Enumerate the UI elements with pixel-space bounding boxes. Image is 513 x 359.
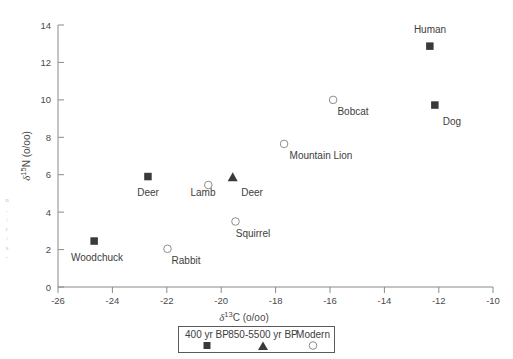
x-tick-label-neg14: -14 — [378, 295, 392, 306]
x-tick-label-neg12: -12 — [432, 295, 446, 306]
x-tick-label-neg16: -16 — [323, 295, 337, 306]
y-axis-element: N (o/oo) — [21, 131, 32, 167]
data-label-lamb: Lamb — [190, 187, 215, 198]
legend-label-modern[interactable]: Modern — [296, 329, 330, 340]
plot-canvas: 0 2 4 6 8 10 12 14 -26 -24 -22 -20 -18 -… — [0, 0, 513, 359]
data-point-woodchuck[interactable] — [90, 237, 98, 245]
legend: 400 yr BP 850-5500 yr BP Modern — [179, 327, 335, 353]
data-point-mountain-lion[interactable] — [280, 140, 288, 148]
x-axis-element: C (o/oo) — [233, 312, 269, 323]
data-label-deer-400: Deer — [137, 187, 159, 198]
data-label-human: Human — [414, 24, 446, 35]
scatter-plot-figure: n.:r:s- 0 2 4 6 8 10 12 14 — [0, 0, 513, 359]
data-point-deer-400[interactable] — [144, 173, 152, 181]
y-tick-label-0: 0 — [46, 282, 51, 293]
y-axis-title: δ15N (o/oo) — [19, 131, 32, 181]
x-tick-label-neg18: -18 — [269, 295, 283, 306]
y-tick-label-12: 12 — [40, 57, 51, 68]
data-point-dog[interactable] — [431, 101, 439, 109]
svg-text:δ13C (o/oo): δ13C (o/oo) — [219, 310, 269, 323]
data-label-woodchuck: Woodchuck — [71, 252, 124, 263]
y-tick-label-14: 14 — [40, 20, 51, 31]
y-tick-label-8: 8 — [46, 132, 51, 143]
x-tick-label-neg10: -10 — [486, 295, 500, 306]
x-tick-label-neg26: -26 — [51, 295, 65, 306]
data-point-human[interactable] — [426, 42, 434, 50]
x-tick-label-neg22: -22 — [160, 295, 174, 306]
x-tick-label-neg24: -24 — [106, 295, 120, 306]
data-label-deer-850: Deer — [241, 187, 263, 198]
data-point-rabbit[interactable] — [164, 245, 172, 253]
legend-marker-open-circle — [309, 342, 317, 350]
x-tick-label-neg20: -20 — [214, 295, 228, 306]
y-axis-superscript: 15 — [19, 167, 28, 175]
x-axis-title: δ13C (o/oo) — [219, 310, 269, 323]
svg-text:δ15N (o/oo): δ15N (o/oo) — [19, 131, 32, 181]
y-axis-ticks: 0 2 4 6 8 10 12 14 — [40, 20, 64, 293]
x-axis-ticks: -26 -24 -22 -20 -18 -16 -14 -12 -10 — [51, 287, 500, 306]
y-tick-label-6: 6 — [46, 169, 51, 180]
axes-group — [58, 25, 493, 287]
series-850-5500-yr-bp: Deer — [228, 172, 264, 198]
legend-marker-filled-triangle — [258, 342, 268, 351]
data-point-bobcat[interactable] — [329, 96, 337, 104]
data-point-squirrel[interactable] — [232, 218, 240, 226]
x-axis-superscript: 13 — [224, 310, 232, 319]
data-label-dog: Dog — [443, 116, 461, 127]
legend-label-850-5500-yr-bp[interactable]: 850-5500 yr BP — [228, 329, 298, 340]
data-label-rabbit: Rabbit — [172, 255, 201, 266]
legend-marker-filled-square — [204, 342, 211, 349]
data-point-deer-850[interactable] — [228, 172, 238, 181]
y-tick-label-2: 2 — [46, 244, 51, 255]
data-label-bobcat: Bobcat — [337, 106, 368, 117]
y-tick-label-10: 10 — [40, 94, 51, 105]
legend-label-400-yr-bp[interactable]: 400 yr BP — [185, 329, 229, 340]
data-label-squirrel: Squirrel — [236, 228, 270, 239]
data-label-mountain-lion: Mountain Lion — [290, 150, 353, 161]
series-modern: Bobcat Mountain Lion Lamb Squirrel Rabbi… — [164, 96, 369, 266]
y-tick-label-4: 4 — [46, 207, 51, 218]
